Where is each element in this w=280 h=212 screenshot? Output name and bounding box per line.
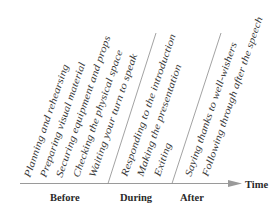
time-axis-label: Time — [245, 179, 268, 190]
phase-label-before: Before — [50, 192, 80, 203]
phase-before-items: Planning and rehearsing Preparing visual… — [21, 34, 139, 180]
speech-timeline-diagram: Time Planning and rehearsing Preparing v… — [0, 0, 280, 212]
phase-after-items: Saying thanks to well-wishers Following … — [182, 15, 264, 179]
phase-label-during: During — [120, 192, 153, 203]
time-axis-arrow-icon — [228, 180, 242, 187]
phase-label-after: After — [180, 192, 204, 203]
